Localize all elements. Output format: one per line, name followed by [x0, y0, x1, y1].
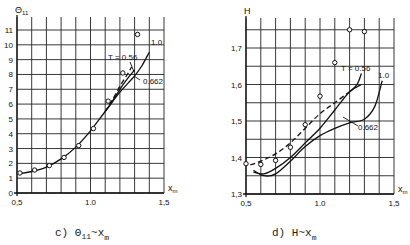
data-point [318, 94, 322, 98]
y-tick-label: 1,3 [231, 190, 243, 199]
x-axis-label: xm [168, 183, 178, 194]
y-axis-label: H [244, 6, 251, 16]
series-line [20, 52, 149, 174]
chart-h-vs-xm: 1,31,41,51,61,70,51.01,5HxmT = 0.560.662… [231, 6, 408, 242]
data-point [288, 145, 292, 149]
y-tick-label: 1,6 [231, 81, 243, 90]
data-point [303, 122, 307, 126]
series-line [350, 74, 362, 92]
x-tick-label: 0,5 [240, 199, 252, 208]
annotation: 0.662 [358, 123, 379, 132]
y-tick-label: 2 [9, 159, 14, 168]
y-tick-label: 6 [9, 100, 14, 109]
annotation: T = 0.56 [108, 53, 138, 62]
data-point [347, 28, 351, 32]
data-point [121, 71, 125, 75]
annotation: T = 0.56 [341, 64, 371, 73]
data-point [18, 171, 22, 175]
annotation: 1.0 [151, 38, 163, 47]
data-point [62, 155, 66, 159]
data-point [362, 29, 366, 33]
data-point [91, 126, 95, 130]
grid [246, 18, 394, 194]
data-point [244, 162, 248, 166]
grid [17, 17, 164, 193]
y-tick-label: 0 [9, 189, 14, 198]
y-tick-label: 1 [9, 174, 14, 183]
data-point [135, 32, 139, 36]
annotation: 1.0 [378, 71, 390, 80]
x-axis-label: xm [398, 184, 408, 195]
data-point [32, 168, 36, 172]
y-tick-label: 1,5 [231, 117, 243, 126]
y-tick-label: 10 [4, 41, 13, 50]
y-tick-label: 1,7 [231, 44, 243, 53]
data-point [77, 143, 81, 147]
data-point [47, 163, 51, 167]
x-tick-label: 1.0 [85, 198, 97, 207]
y-tick-label: 7 [9, 85, 14, 94]
y-tick-label: 11 [5, 26, 14, 35]
x-tick-label: 1.0 [314, 199, 326, 208]
annotation: 0.662 [143, 77, 164, 86]
y-tick-label: 8 [9, 70, 14, 79]
panel-caption: d) H~xm [272, 227, 317, 242]
x-tick-label: 1,5 [158, 198, 170, 207]
data-point [259, 162, 263, 166]
panel-caption: c) Θ11~xm [55, 227, 109, 242]
y-axis-label: Θ11 [15, 5, 29, 16]
y-tick-label: 1,4 [231, 154, 243, 163]
y-tick-label: 4 [9, 130, 14, 139]
data-point [106, 99, 110, 103]
x-tick-label: 1,5 [388, 199, 400, 208]
leader-line [130, 62, 134, 72]
y-tick-label: 5 [9, 115, 14, 124]
y-tick-label: 3 [9, 145, 14, 154]
figure: 012345678910110,51.01,5Θ11xmT = 0.560.66… [0, 0, 410, 245]
x-tick-label: 0,5 [11, 198, 23, 207]
chart-theta11-vs-xm: 012345678910110,51.01,5Θ11xmT = 0.560.66… [4, 5, 177, 242]
y-tick-label: 9 [9, 56, 14, 65]
series-line [253, 85, 361, 175]
data-point [333, 60, 337, 64]
data-point [273, 158, 277, 162]
